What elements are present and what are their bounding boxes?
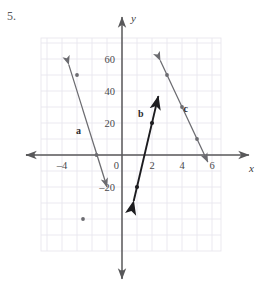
data-point	[81, 217, 85, 221]
x-tick-label: –4	[56, 160, 68, 171]
data-point	[150, 121, 154, 125]
y-tick-label: 60	[105, 54, 116, 65]
line-label-a: a	[76, 125, 81, 136]
data-point	[135, 185, 139, 189]
data-point	[165, 73, 169, 77]
y-tick-label: 40	[105, 86, 116, 97]
coordinate-plane: –40246604020–20 abc y x	[0, 0, 270, 285]
line-label-b: b	[138, 108, 144, 119]
grid-lines	[41, 38, 221, 251]
y-tick-label: –20	[98, 182, 115, 193]
x-tick-label: 2	[149, 160, 154, 171]
x-axis-label: x	[248, 162, 254, 174]
x-tick-label: 0	[114, 160, 119, 171]
x-tick-label: 6	[209, 160, 214, 171]
data-point	[195, 137, 199, 141]
data-point	[95, 153, 99, 157]
x-tick-label: 4	[179, 160, 185, 171]
graph-figure: 5. –40246604020–20 abc y x	[0, 0, 270, 285]
y-axis-label: y	[130, 12, 136, 24]
y-tick-label: 20	[105, 118, 116, 129]
line-label-c: c	[184, 103, 189, 114]
data-point	[75, 73, 79, 77]
